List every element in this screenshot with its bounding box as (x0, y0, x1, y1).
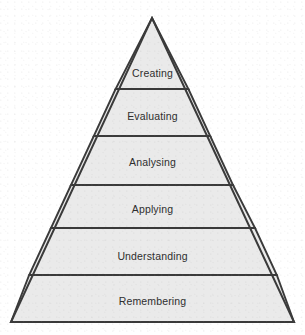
tier-label-remembering: Remembering (0, 295, 305, 307)
tier-label-analysing: Analysing (0, 156, 305, 168)
tier-label-understanding: Understanding (0, 250, 305, 262)
tier-label-creating: Creating (0, 67, 305, 79)
tier-label-evaluating: Evaluating (0, 110, 305, 122)
tier-label-applying: Applying (0, 203, 305, 215)
bloom-taxonomy-pyramid-diagram: Creating Evaluating Analysing Applying U… (0, 0, 305, 335)
